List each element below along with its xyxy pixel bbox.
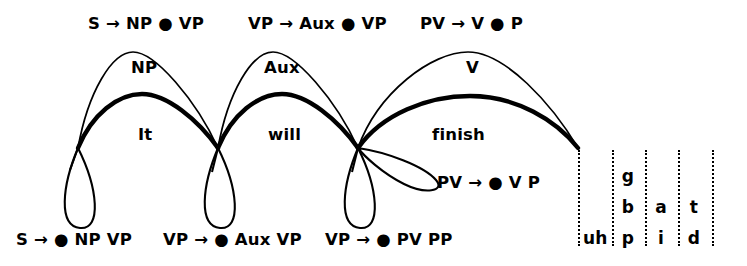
lattice-divider-4 (712, 150, 714, 246)
selfloop-vp-aux-vp (205, 148, 235, 228)
lattice-segment-i: i (649, 230, 673, 247)
rule-inline-pv: PV → ● V P (437, 175, 540, 192)
rule-top-vp: VP → Aux ● VP (248, 16, 387, 33)
word-label-it: It (138, 127, 152, 144)
lattice-segment-b: b (616, 199, 640, 216)
selfloop-s-np-vp (65, 148, 95, 228)
rule-bottom-vp-aux: VP → ● Aux VP (163, 232, 302, 249)
chart-parser-figure: S → NP ● VP VP → Aux ● VP PV → V ● P NP … (0, 0, 747, 266)
rule-top-s: S → NP ● VP (88, 16, 204, 33)
category-label-aux: Aux (264, 60, 300, 77)
lattice-divider-0 (578, 150, 580, 246)
category-label-np: NP (131, 60, 157, 77)
lattice-divider-2 (645, 150, 647, 246)
selfloop-pv-v-p (358, 148, 438, 190)
lattice-segment-uh: uh (583, 230, 607, 247)
rule-top-pv: PV → V ● P (420, 16, 523, 33)
rule-bottom-s: S → ● NP VP (16, 232, 132, 249)
rule-bottom-vp-pv: VP → ● PV PP (325, 232, 453, 249)
word-label-finish: finish (432, 127, 485, 144)
arc-layer (0, 0, 747, 266)
lattice-segment-t: t (682, 199, 706, 216)
node-tick-0 (70, 148, 78, 170)
lattice-segment-p: p (616, 230, 640, 247)
lattice-segment-a: a (649, 199, 673, 216)
lattice-divider-3 (678, 150, 680, 246)
lattice-segment-g: g (616, 168, 640, 185)
category-label-v: V (466, 60, 479, 77)
lattice-divider-1 (612, 150, 614, 246)
lattice-segment-d: d (682, 230, 706, 247)
word-label-will: will (268, 127, 301, 144)
